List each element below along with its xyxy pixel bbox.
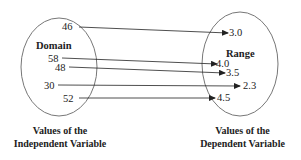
range-caption-line1: Values of the (190, 124, 295, 137)
domain-title: Domain (36, 40, 72, 51)
range-value-3.5: 3.5 (226, 67, 239, 78)
range-caption-line2: Dependent Variable (190, 137, 295, 150)
range-value-4.5: 4.5 (217, 92, 230, 103)
domain-value-52: 52 (63, 93, 74, 104)
domain-caption-line1: Values of the (5, 124, 115, 137)
arrow-58-to-4.0 (62, 58, 217, 64)
arrow-30-to-2.3 (58, 85, 240, 86)
domain-caption-line2: Independent Variable (5, 137, 115, 150)
range-value-2.3: 2.3 (243, 80, 256, 91)
range-value-3.0: 3.0 (229, 27, 242, 38)
domain-caption: Values of the Independent Variable (5, 124, 115, 150)
range-caption: Values of the Dependent Variable (190, 124, 295, 150)
domain-value-48: 48 (55, 62, 66, 73)
domain-value-30: 30 (44, 80, 55, 91)
range-title: Range (226, 48, 255, 59)
domain-value-46: 46 (62, 21, 73, 32)
arrow-46-to-3.0 (79, 27, 228, 33)
